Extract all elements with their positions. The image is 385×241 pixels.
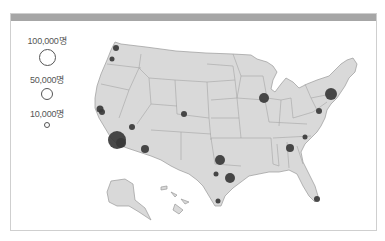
bubble-new-york[interactable] xyxy=(325,88,337,100)
bubble-phoenix[interactable] xyxy=(141,145,149,153)
bubble-denver[interactable] xyxy=(181,111,187,117)
us-map xyxy=(11,14,378,232)
contiguous-us-shape xyxy=(95,42,357,206)
bubble-houston[interactable] xyxy=(225,173,235,183)
bubble-las-vegas[interactable] xyxy=(129,124,135,130)
alaska-shape xyxy=(107,179,151,220)
bubble-chicago[interactable] xyxy=(259,93,269,103)
bubble-south-texas[interactable] xyxy=(216,199,221,204)
us-land xyxy=(95,42,357,220)
bubble-seattle[interactable] xyxy=(113,45,119,51)
bubble-dallas[interactable] xyxy=(215,155,225,165)
bubble-washington-dc[interactable] xyxy=(316,108,322,114)
bubble-san-diego[interactable] xyxy=(116,138,126,148)
bubble-san-jose[interactable] xyxy=(99,109,105,115)
bubble-portland[interactable] xyxy=(110,57,115,62)
bubble-miami[interactable] xyxy=(314,196,320,202)
bubble-charlotte[interactable] xyxy=(303,135,308,140)
bubble-atlanta[interactable] xyxy=(286,144,294,152)
bubble-austin[interactable] xyxy=(214,172,219,177)
map-panel: 100,000명 50,000명 10,000명 xyxy=(10,13,377,231)
hawaii-shape xyxy=(161,186,189,214)
